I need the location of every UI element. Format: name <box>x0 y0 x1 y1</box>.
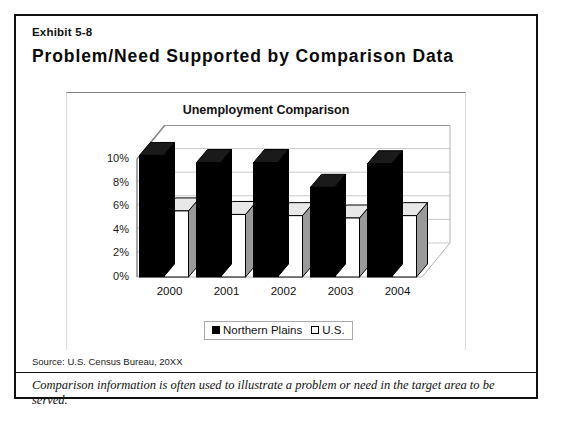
footer-divider <box>16 372 536 373</box>
exhibit-container: Exhibit 5-8 Problem/Need Supported by Co… <box>14 14 538 399</box>
x-axis-tick-label: 2001 <box>202 285 252 297</box>
x-axis-tick-label: 2003 <box>316 285 366 297</box>
x-axis-tick-label: 2000 <box>145 285 195 297</box>
chart-bars <box>140 142 428 277</box>
chart-panel: Unemployment Comparison 0%2%4%6%8%10% 20… <box>66 92 466 350</box>
x-axis-tick-label: 2004 <box>373 285 423 297</box>
y-axis-tick-label: 0% <box>95 270 129 282</box>
source-note: Source: U.S. Census Bureau, 20XX <box>32 356 183 367</box>
exhibit-label: Exhibit 5-8 <box>32 26 92 38</box>
legend-swatch-us <box>311 326 319 334</box>
chart-legend: Northern Plains U.S. <box>204 321 353 340</box>
legend-item: Northern Plains <box>212 324 302 336</box>
y-axis-tick-label: 8% <box>95 176 129 188</box>
chart-title: Unemployment Comparison <box>67 103 465 117</box>
plot-area: 0%2%4%6%8%10% 20002001200220032004 <box>67 125 467 310</box>
y-axis-tick-label: 6% <box>95 199 129 211</box>
legend-swatch-northern-plains <box>212 326 220 334</box>
y-axis-tick-label: 2% <box>95 246 129 258</box>
y-axis-tick-label: 10% <box>95 152 129 164</box>
y-axis-tick-label: 4% <box>95 223 129 235</box>
legend-label: U.S. <box>322 324 344 336</box>
page-title: Problem/Need Supported by Comparison Dat… <box>32 46 454 67</box>
legend-item: U.S. <box>311 324 344 336</box>
footnote-text: Comparison information is often used to … <box>32 378 524 408</box>
legend-label: Northern Plains <box>223 324 302 336</box>
x-axis-tick-label: 2002 <box>259 285 309 297</box>
